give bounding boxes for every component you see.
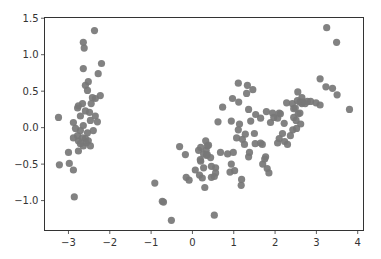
plot-area-frame xyxy=(45,18,364,231)
data-point xyxy=(214,118,221,125)
data-point xyxy=(231,167,238,174)
data-point xyxy=(71,193,78,200)
data-points xyxy=(55,24,353,224)
data-point xyxy=(200,164,207,171)
data-point xyxy=(84,129,91,136)
data-point xyxy=(334,91,341,98)
x-tick-label: −1 xyxy=(144,237,159,248)
data-point xyxy=(199,174,206,181)
data-point xyxy=(201,184,208,191)
data-point xyxy=(333,39,340,46)
x-axis: −3−2−101234 xyxy=(61,231,361,248)
data-point xyxy=(56,161,63,168)
data-point xyxy=(79,100,86,107)
data-point xyxy=(322,83,329,90)
data-point xyxy=(70,166,77,173)
data-point xyxy=(212,169,219,176)
data-point xyxy=(293,117,300,124)
data-point xyxy=(77,112,84,119)
data-point xyxy=(211,212,218,219)
data-point xyxy=(87,142,94,149)
data-point xyxy=(197,158,204,165)
data-point xyxy=(219,104,226,111)
data-point xyxy=(192,166,199,173)
data-point xyxy=(229,95,236,102)
data-point xyxy=(89,94,96,101)
y-tick-label: 0.5 xyxy=(23,86,39,97)
data-point xyxy=(66,160,73,167)
data-point xyxy=(329,85,336,92)
data-point xyxy=(84,87,91,94)
data-point xyxy=(245,106,252,113)
y-tick-label: 1.5 xyxy=(23,13,39,24)
data-point xyxy=(230,149,237,156)
data-point xyxy=(317,101,324,108)
data-point xyxy=(186,177,193,184)
data-point xyxy=(284,141,291,148)
data-point xyxy=(294,88,301,95)
data-point xyxy=(263,108,270,115)
data-point xyxy=(91,27,98,34)
data-point xyxy=(176,143,183,150)
x-tick-label: 2 xyxy=(272,237,278,248)
data-point xyxy=(86,109,93,116)
data-point xyxy=(251,130,258,137)
data-point xyxy=(168,217,175,224)
x-tick-label: 1 xyxy=(231,237,237,248)
data-point xyxy=(274,139,281,146)
data-point xyxy=(204,151,211,158)
data-point xyxy=(249,86,256,93)
y-tick-label: 1.0 xyxy=(23,49,39,60)
data-point xyxy=(75,147,82,154)
data-point xyxy=(238,176,245,183)
data-point xyxy=(151,180,158,187)
y-tick-label: 0.0 xyxy=(23,122,39,133)
data-point xyxy=(265,169,272,176)
data-point xyxy=(72,125,79,132)
x-tick-label: −3 xyxy=(61,237,76,248)
data-point xyxy=(243,90,250,97)
data-point xyxy=(292,104,299,111)
data-point xyxy=(241,141,248,148)
data-point xyxy=(95,70,102,77)
data-point xyxy=(217,149,224,156)
data-point xyxy=(317,75,324,82)
data-point xyxy=(228,118,235,125)
data-point xyxy=(293,125,300,132)
data-point xyxy=(81,45,88,52)
data-point xyxy=(235,99,242,106)
data-point xyxy=(235,80,242,87)
data-point xyxy=(246,149,253,156)
data-point xyxy=(323,24,330,31)
y-axis: 1.51.00.50.0−0.5−1.0 xyxy=(14,13,44,206)
data-point xyxy=(80,65,87,72)
data-point xyxy=(257,139,264,146)
data-point xyxy=(160,199,167,206)
data-point xyxy=(302,100,309,107)
y-tick-label: −0.5 xyxy=(14,159,38,170)
data-point xyxy=(197,144,204,151)
x-tick-label: −2 xyxy=(102,237,117,248)
data-point xyxy=(55,114,62,121)
data-point xyxy=(247,118,254,125)
data-point xyxy=(287,132,294,139)
data-point xyxy=(228,161,235,168)
data-point xyxy=(236,120,243,127)
data-point xyxy=(257,115,264,122)
data-point xyxy=(281,120,288,127)
data-point xyxy=(182,151,189,158)
x-tick-label: 3 xyxy=(313,237,319,248)
data-point xyxy=(65,149,72,156)
x-tick-label: 0 xyxy=(189,237,195,248)
data-point xyxy=(205,142,212,149)
data-point xyxy=(277,110,284,117)
data-point xyxy=(346,106,353,113)
scatter-chart: −3−2−101234 1.51.00.50.0−0.5−1.0 xyxy=(0,0,381,259)
data-point xyxy=(208,163,215,170)
y-tick-label: −1.0 xyxy=(14,195,38,206)
data-point xyxy=(98,60,105,67)
data-point xyxy=(242,131,249,138)
data-point xyxy=(94,118,101,125)
x-tick-label: 4 xyxy=(355,237,361,248)
data-point xyxy=(261,155,268,162)
